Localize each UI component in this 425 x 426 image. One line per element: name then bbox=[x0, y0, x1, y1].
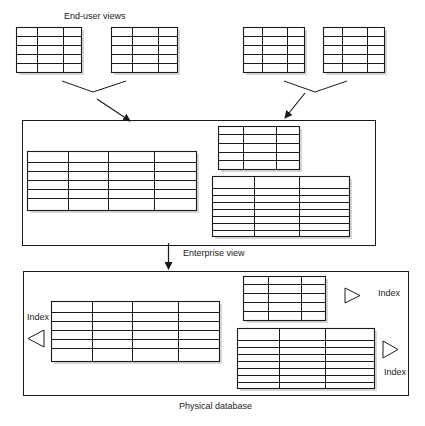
enterprise-tables bbox=[27, 126, 352, 239]
merge-connector-left bbox=[62, 81, 126, 92]
end-user-table-3 bbox=[243, 27, 307, 75]
enterprise-table-2 bbox=[218, 126, 302, 172]
enterprise-table-1 bbox=[27, 151, 199, 213]
physical-table-3 bbox=[237, 328, 377, 391]
end-user-table-1 bbox=[16, 27, 84, 75]
index-triangle-left-icon bbox=[28, 330, 44, 347]
end-user-table-4 bbox=[323, 27, 387, 75]
index-triangle-top-right-icon bbox=[345, 288, 360, 303]
end-user-views-label: End-user views bbox=[64, 11, 126, 21]
index-label-bottom-right: Index bbox=[384, 367, 406, 377]
database-views-diagram bbox=[0, 0, 425, 426]
end-user-table-2 bbox=[111, 27, 180, 75]
index-triangle-bottom-right-icon bbox=[383, 341, 398, 358]
arrow-right-to-enterprise bbox=[285, 93, 305, 118]
physical-table-2 bbox=[243, 276, 328, 323]
end-user-tables bbox=[16, 27, 387, 75]
enterprise-view-label: Enterprise view bbox=[183, 248, 245, 258]
physical-database-label: Physical database bbox=[179, 401, 252, 411]
index-label-left: Index bbox=[27, 312, 49, 322]
enterprise-table-3 bbox=[212, 176, 352, 239]
merge-connector-right bbox=[284, 81, 347, 92]
arrow-left-to-enterprise bbox=[97, 99, 130, 121]
index-label-top-right: Index bbox=[378, 288, 400, 298]
physical-tables bbox=[51, 276, 377, 391]
physical-table-1 bbox=[51, 301, 222, 364]
